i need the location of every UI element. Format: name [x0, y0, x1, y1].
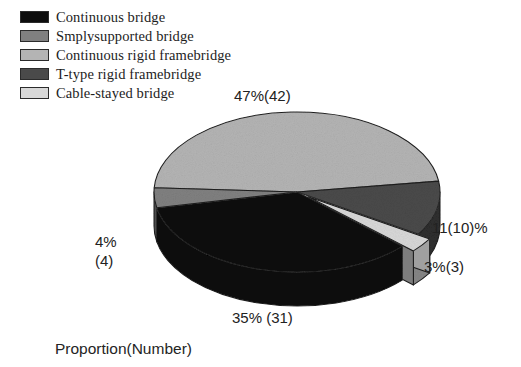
- pie-cut-face-cable-stayed-bridge: [308, 197, 413, 285]
- data-label-smplysupported-bridge: 4% (4): [95, 232, 117, 270]
- legend-label-t-type-rigid-framebridge: T-type rigid framebridge: [56, 66, 201, 82]
- data-label-smplysupported-bridge-count: (4): [95, 251, 117, 270]
- pie-slice-continuous-rigid-framebridge: [154, 112, 438, 192]
- legend-label-cable-stayed-bridge: Cable-stayed bridge: [56, 85, 174, 101]
- legend-item-smplysupported-bridge: Smplysupported bridge: [20, 26, 300, 45]
- pie-slice-cable-stayed-bridge: [308, 197, 430, 251]
- data-label-t-type-rigid-framebridge: 11(10)%: [432, 218, 488, 237]
- legend-label-continuous-bridge: Continuous bridge: [56, 9, 165, 25]
- pie-slice-t-type-rigid-framebridge: [297, 181, 440, 234]
- legend-swatch-continuous-bridge: [20, 11, 49, 23]
- legend-swatch-cable-stayed-bridge: [20, 87, 49, 99]
- data-label-cable-stayed-bridge: 3%(3): [424, 257, 464, 276]
- pie-3d-side-walls: [154, 192, 440, 306]
- legend-label-continuous-rigid-framebridge: Continuous rigid framebridge: [56, 47, 231, 63]
- pie-slice-continuous-bridge: [157, 192, 402, 272]
- data-label-continuous-rigid-framebridge: 47%(42): [234, 86, 291, 105]
- legend-item-t-type-rigid-framebridge: T-type rigid framebridge: [20, 64, 300, 83]
- legend-label-smplysupported-bridge: Smplysupported bridge: [56, 28, 194, 44]
- data-label-smplysupported-bridge-percent: 4%: [95, 233, 117, 250]
- legend-swatch-smplysupported-bridge: [20, 30, 49, 42]
- pie-wall-continuous-bridge: [157, 208, 402, 306]
- pie-cut-face-cable-stayed-bridge: [308, 197, 430, 273]
- legend-item-continuous-rigid-framebridge: Continuous rigid framebridge: [20, 45, 300, 64]
- pie-top-faces: [154, 112, 440, 272]
- pie-chart-figure: Continuous bridge Smplysupported bridge …: [0, 0, 521, 367]
- data-label-continuous-bridge: 35% (31): [232, 308, 293, 327]
- legend-item-continuous-bridge: Continuous bridge: [20, 7, 300, 26]
- legend-swatch-t-type-rigid-framebridge: [20, 68, 49, 80]
- pie-slice-smplysupported-bridge: [154, 188, 297, 208]
- legend-swatch-continuous-rigid-framebridge: [20, 49, 49, 61]
- chart-caption: Proportion(Number): [55, 340, 192, 358]
- pie-wall-smplysupported-bridge: [154, 192, 157, 242]
